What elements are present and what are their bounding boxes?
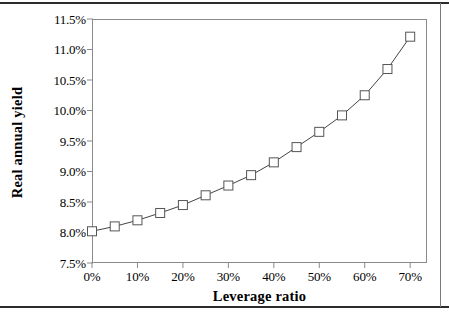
- data-point-marker: [315, 127, 324, 136]
- data-point-marker: [110, 222, 119, 231]
- data-point-marker: [224, 181, 233, 190]
- data-point-marker: [269, 158, 278, 167]
- data-point-marker: [292, 143, 301, 152]
- y-tick-label: 8.0%: [34, 226, 86, 239]
- data-point-markers: [88, 32, 415, 236]
- y-tick-label: 8.5%: [34, 196, 86, 209]
- data-point-marker: [201, 191, 210, 200]
- x-axis-ticks: [92, 262, 410, 268]
- y-tick-label: 11.0%: [34, 43, 86, 56]
- data-point-marker: [383, 65, 392, 74]
- y-tick-label: 9.5%: [34, 135, 86, 148]
- y-tick-label: 9.0%: [34, 165, 86, 178]
- x-tick-label: 50%: [294, 270, 344, 283]
- data-point-marker: [88, 227, 97, 236]
- y-tick-label: 7.5%: [34, 257, 86, 270]
- data-series-line: [92, 37, 410, 232]
- data-point-marker: [360, 91, 369, 100]
- y-tick-label: 10.5%: [34, 74, 86, 87]
- y-tick-label: 10.0%: [34, 104, 86, 117]
- x-tick-label: 20%: [158, 270, 208, 283]
- data-point-marker: [133, 216, 142, 225]
- x-tick-label: 40%: [249, 270, 299, 283]
- x-tick-label: 30%: [203, 270, 253, 283]
- x-tick-label: 60%: [340, 270, 390, 283]
- x-tick-label: 70%: [385, 270, 435, 283]
- x-tick-label: 0%: [67, 270, 117, 283]
- data-point-marker: [338, 111, 347, 120]
- x-axis-title: Leverage ratio: [92, 288, 427, 305]
- y-tick-label: 11.5%: [34, 13, 86, 26]
- data-point-marker: [178, 201, 187, 210]
- figure-container: 11.5% 11.0% 10.5% 10.0% 9.5% 9.0% 8.5% 8…: [0, 0, 449, 314]
- x-tick-label: 10%: [112, 270, 162, 283]
- data-point-marker: [406, 32, 415, 41]
- data-point-marker: [156, 208, 165, 217]
- data-point-marker: [247, 171, 256, 180]
- y-tick-label-group: 11.5% 11.0% 10.5% 10.0% 9.5% 9.0% 8.5% 8…: [30, 0, 86, 314]
- y-axis-title: Real annual yield: [9, 53, 26, 233]
